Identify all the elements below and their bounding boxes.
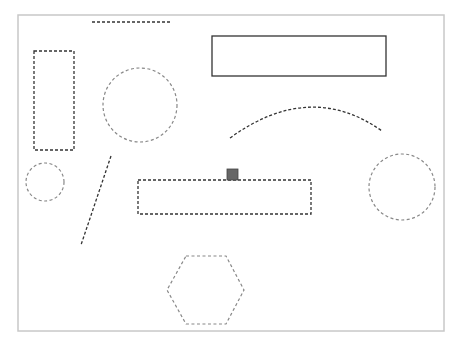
selection-handle[interactable]: [227, 169, 238, 180]
drawing-canvas[interactable]: [0, 0, 458, 347]
